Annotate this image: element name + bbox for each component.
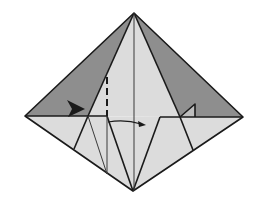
- diagram-canvas: [0, 0, 263, 203]
- origami-diagram: Origami fold step: squash/inside-reverse…: [0, 0, 263, 203]
